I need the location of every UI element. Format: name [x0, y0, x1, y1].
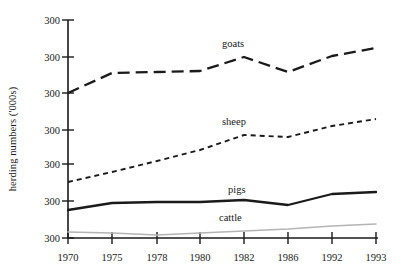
y-tick-label: 300: [26, 88, 60, 99]
x-tick-label: 1980: [178, 252, 222, 264]
series-line-pigs: [68, 192, 376, 210]
x-tick-label: 1992: [310, 252, 354, 264]
chart-plot-area: [0, 0, 401, 278]
series-label-cattle: cattle: [219, 212, 242, 223]
series-label-pigs: pigs: [228, 184, 246, 195]
series-label-sheep: sheep: [222, 116, 246, 127]
y-tick-label: 300: [26, 52, 60, 63]
y-tick-label: 300: [26, 196, 60, 207]
y-axis-title: herding numbers ('000s): [0, 0, 24, 278]
x-tick-label: 1986: [266, 252, 310, 264]
x-tick-label: 1970: [46, 252, 90, 264]
x-tick-label: 1993: [354, 252, 398, 264]
x-tick-label: 1978: [135, 252, 179, 264]
y-tick-label: 300: [26, 233, 60, 244]
y-tick-label: 300: [26, 125, 60, 136]
y-tick-label: 300: [26, 159, 60, 170]
series-line-sheep: [68, 119, 376, 182]
series-line-cattle: [68, 224, 376, 235]
series-line-goats: [68, 48, 376, 93]
x-tick-label: 1975: [90, 252, 134, 264]
chart-figure: herding numbers ('000s) 300 300 300 300 …: [0, 0, 401, 278]
x-tick-label: 1982: [222, 252, 266, 264]
y-tick-label: 300: [26, 15, 60, 26]
series-label-goats: goats: [222, 38, 244, 49]
